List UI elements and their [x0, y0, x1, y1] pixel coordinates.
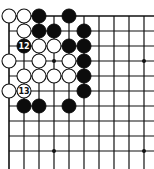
star-point — [52, 149, 56, 153]
white-stone-icon — [32, 69, 46, 83]
white-stone-icon — [17, 24, 31, 38]
black-stone — [62, 99, 76, 113]
white-stone-icon — [2, 9, 16, 23]
star-point — [142, 59, 146, 63]
white-stone — [17, 9, 31, 23]
black-stone: 12 — [17, 39, 31, 53]
move-number-label: 13 — [18, 87, 29, 96]
black-stone-icon — [77, 24, 91, 38]
white-stone-icon — [62, 69, 76, 83]
black-stone — [62, 39, 76, 53]
star-point — [142, 149, 146, 153]
white-stone-icon — [47, 69, 61, 83]
black-stone — [17, 99, 31, 113]
white-stone-icon — [17, 69, 31, 83]
white-stone — [47, 69, 61, 83]
black-stone — [77, 84, 91, 98]
white-stone-icon — [2, 84, 16, 98]
black-stone-icon — [77, 69, 91, 83]
white-stone — [17, 69, 31, 83]
white-stone — [2, 9, 16, 23]
white-stone-icon — [2, 54, 16, 68]
white-stone-icon — [32, 39, 46, 53]
white-stone — [17, 24, 31, 38]
move-number-label: 12 — [18, 42, 29, 51]
black-stone — [77, 39, 91, 53]
white-stone — [62, 54, 76, 68]
black-stone — [77, 69, 91, 83]
white-stone — [2, 84, 16, 98]
white-stone — [32, 39, 46, 53]
black-stone-icon — [32, 99, 46, 113]
black-stone — [77, 54, 91, 68]
white-stone — [32, 54, 46, 68]
black-stone-icon — [77, 39, 91, 53]
white-stone — [32, 69, 46, 83]
go-board-diagram: 1213 — [0, 0, 154, 169]
black-stone-icon — [17, 99, 31, 113]
star-point — [52, 59, 56, 63]
white-stone-icon — [17, 9, 31, 23]
black-stone-icon — [62, 99, 76, 113]
white-stone: 13 — [17, 84, 31, 98]
white-stone — [62, 69, 76, 83]
black-stone-icon — [62, 9, 76, 23]
black-stone — [47, 24, 61, 38]
black-stone-icon — [32, 9, 46, 23]
white-stone — [2, 54, 16, 68]
black-stone-icon — [47, 24, 61, 38]
black-stone-icon — [77, 84, 91, 98]
white-stone-icon — [62, 54, 76, 68]
black-stone-icon — [62, 39, 76, 53]
white-stone-icon — [32, 54, 46, 68]
black-stone-icon — [32, 24, 46, 38]
black-stone — [77, 24, 91, 38]
black-stone — [32, 24, 46, 38]
black-stone-icon — [77, 54, 91, 68]
black-stone — [62, 9, 76, 23]
white-stone-icon — [47, 39, 61, 53]
black-stone — [32, 9, 46, 23]
white-stone — [47, 39, 61, 53]
black-stone — [32, 99, 46, 113]
